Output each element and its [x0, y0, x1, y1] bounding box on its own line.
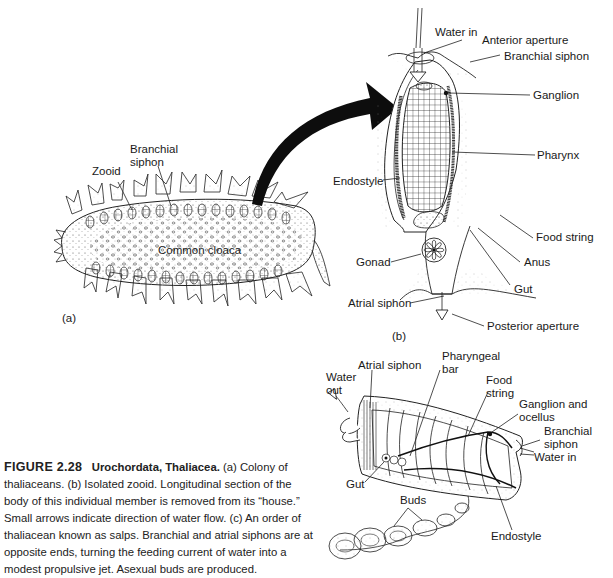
- label-endostyle: Endostyle: [333, 175, 384, 188]
- label-pharyngeal-bar-line2: bar: [442, 363, 459, 376]
- label-branchial-siphon-line1: Branchial: [130, 143, 178, 156]
- label-gut-c: Gut: [346, 478, 365, 491]
- colony-illustration: [54, 166, 330, 306]
- label-water-out-line2: out: [326, 384, 342, 397]
- panel-b-tag: (b): [392, 330, 406, 343]
- figure-title: Urochordata, Thaliacea.: [92, 461, 220, 473]
- figure-caption: FIGURE 2.28 Urochordata, Thaliacea. (a) …: [4, 459, 316, 578]
- label-food-string-c-line1: Food: [486, 374, 512, 387]
- label-buds: Buds: [400, 494, 426, 507]
- label-ganglion-ocellus-line1: Ganglion and: [519, 398, 587, 411]
- label-food-string: Food string: [536, 231, 594, 244]
- label-anterior-aperture: Anterior aperture: [482, 34, 568, 47]
- label-gut: Gut: [514, 283, 533, 296]
- label-water-in-c: Water in: [534, 451, 576, 464]
- label-branchial-siphon-line2: siphon: [130, 156, 164, 169]
- label-atrial-siphon: Atrial siphon: [348, 297, 411, 310]
- label-common-cloaca: Common cloaca: [158, 244, 241, 257]
- label-branchial-siphon: Branchial siphon: [504, 50, 589, 63]
- label-water-out-line1: Water: [326, 371, 356, 384]
- label-branchial-siphon-c-line1: Branchial: [544, 425, 592, 438]
- label-atrial-siphon-c: Atrial siphon: [358, 359, 421, 372]
- label-pharynx: Pharynx: [537, 149, 579, 162]
- label-endostyle-c: Endostyle: [491, 530, 542, 543]
- label-zooid: Zooid: [92, 165, 121, 178]
- label-posterior-aperture: Posterior aperture: [487, 320, 579, 333]
- label-pharyngeal-bar-line1: Pharyngeal: [442, 350, 500, 363]
- label-food-string-c-line2: string: [486, 387, 514, 400]
- label-gonad: Gonad: [356, 256, 391, 269]
- figure-number: FIGURE 2.28: [4, 460, 82, 474]
- label-branchial-siphon-c-line2: siphon: [544, 438, 578, 451]
- label-water-in: Water in: [435, 26, 477, 39]
- label-anus: Anus: [524, 256, 550, 269]
- panel-a-tag: (a): [62, 312, 76, 325]
- label-ganglion: Ganglion: [533, 89, 579, 102]
- figure-caption-text: (a) Colony of thaliaceans. (b) Isolated …: [4, 461, 313, 575]
- label-ganglion-ocellus-line2: ocellus: [519, 411, 555, 424]
